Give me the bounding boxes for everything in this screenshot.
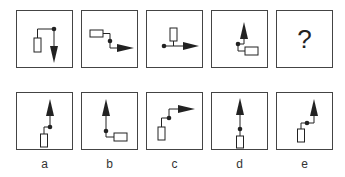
sequence-figure-1 [16,10,73,68]
option-label-a: a [16,157,73,171]
arrow-up-figure-icon [17,93,74,151]
option-label-d: d [211,157,268,171]
arrow-right-figure-icon [147,11,204,69]
arrow-right-figure-icon [147,93,204,151]
sequence-figure-5-unknown: ? [276,10,333,68]
arrow-up-figure-icon [212,93,269,151]
sequence-figure-4 [211,10,268,68]
option-d[interactable] [211,92,268,150]
arrow-up-figure-icon [82,93,139,151]
option-label-b: b [81,157,138,171]
sequence-figure-3 [146,10,203,68]
option-c[interactable] [146,92,203,150]
arrow-right-figure-icon [82,11,139,69]
arrow-down-figure-icon [17,11,74,69]
question-mark: ? [277,11,332,67]
option-label-c: c [146,157,203,171]
sequence-figure-2 [81,10,138,68]
arrow-up-figure-icon [212,11,269,69]
option-b[interactable] [81,92,138,150]
arrow-up-figure-icon [277,93,334,151]
option-a[interactable] [16,92,73,150]
option-e[interactable] [276,92,333,150]
option-label-e: e [276,157,333,171]
